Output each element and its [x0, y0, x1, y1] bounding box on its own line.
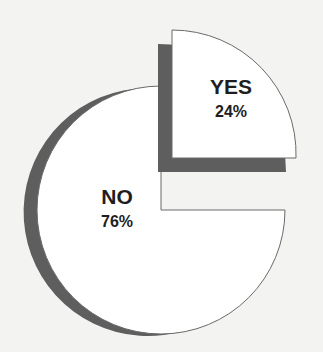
yes-percent-label: 24%: [196, 102, 266, 122]
no-slice-label: NO 76%: [82, 186, 152, 232]
yes-slice-label: YES 24%: [196, 76, 266, 122]
no-percent-label: 76%: [82, 212, 152, 232]
pie-chart-graphic: [0, 0, 323, 352]
yes-category-label: YES: [196, 76, 266, 98]
pie-chart: YES 24% NO 76%: [0, 0, 323, 352]
no-category-label: NO: [82, 186, 152, 208]
